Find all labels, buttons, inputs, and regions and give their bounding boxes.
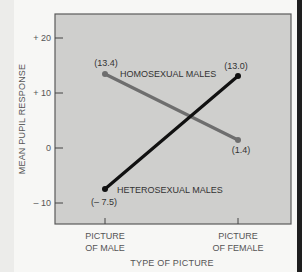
series-label-heterosexual: HETEROSEXUAL MALES — [117, 185, 223, 195]
y-axis-title: MEAN PUPIL RESPONSE — [17, 64, 27, 175]
x-tick-label-male: OF MALE — [85, 243, 125, 253]
line-chart: + 20 + 10 0 – 10 MEAN PUPIL RESPONSE PIC… — [0, 0, 302, 272]
y-tick-label: + 10 — [33, 88, 51, 98]
x-tick-label-female: PICTURE — [218, 231, 258, 241]
value-label: (13.4) — [94, 58, 118, 68]
y-tick-label: + 20 — [33, 33, 51, 43]
value-label: (13.0) — [224, 61, 248, 71]
value-label: (– 7.5) — [91, 197, 117, 207]
x-tick-label-male: PICTURE — [85, 231, 125, 241]
y-tick-label: – 10 — [33, 198, 51, 208]
y-tick-label: 0 — [46, 143, 51, 153]
series-label-homosexual: HOMOSEXUAL MALES — [120, 69, 216, 79]
x-axis-title: TYPE OF PICTURE — [130, 258, 214, 268]
value-label: (1.4) — [232, 145, 251, 155]
x-tick-label-female: OF FEMALE — [212, 243, 263, 253]
